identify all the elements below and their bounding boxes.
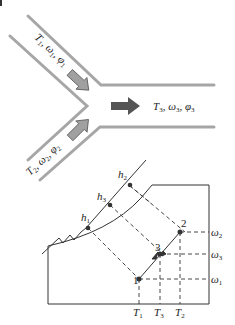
h2-label: h2 — [118, 168, 128, 182]
corner-mark — [0, 0, 2, 6]
outlet-label: T3, ω3, φ3 — [153, 100, 195, 114]
arrow-2-to-3 — [162, 251, 166, 256]
w2-label: ω2 — [211, 226, 223, 240]
w3-label: ω3 — [211, 248, 223, 262]
saturation-curve — [48, 198, 141, 246]
state-grid-lines — [139, 232, 209, 304]
inlet2-arrow — [64, 114, 94, 144]
outlet-arrow — [111, 97, 140, 115]
h3-dot — [108, 203, 113, 208]
h1-dot — [86, 226, 91, 231]
point-2 — [178, 230, 183, 235]
h1-line — [88, 228, 139, 279]
duct-upper-wall — [28, 16, 214, 85]
T1-label: T1 — [133, 306, 143, 320]
point-1-label: 1 — [133, 274, 139, 286]
point-3-label: 3 — [155, 241, 161, 253]
h3-label: h3 — [97, 190, 107, 204]
w1-label: ω1 — [211, 273, 223, 287]
T3-label: T3 — [154, 306, 164, 320]
point-2-label: 2 — [181, 217, 187, 229]
inlet1-arrow — [64, 67, 94, 96]
enthalpy-scale-line — [42, 160, 146, 254]
chart-frame — [48, 185, 209, 304]
T2-label: T2 — [175, 306, 185, 320]
h2-dot — [128, 183, 133, 188]
adiabatic-mixing-figure: T1, ω1, φ1 T2, ω2, φ2 T3, ω3, φ3 — [0, 0, 235, 325]
duct-lower-wall — [40, 127, 214, 180]
h1-label: h1 — [81, 211, 91, 225]
